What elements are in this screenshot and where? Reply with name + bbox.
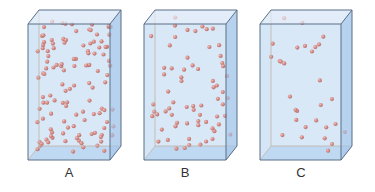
right-face [341, 10, 352, 160]
top-face [260, 10, 352, 24]
label-a: A [65, 165, 74, 180]
right-face [226, 10, 237, 160]
top-face [28, 10, 121, 24]
container-c [260, 10, 352, 160]
front-panel [144, 24, 226, 160]
container-a [28, 10, 121, 160]
label-b: B [181, 165, 190, 180]
container-b [144, 10, 237, 160]
front-panel [28, 24, 110, 160]
label-c: C [296, 165, 305, 180]
top-face [144, 10, 237, 24]
front-panel [260, 24, 341, 160]
right-face [110, 10, 121, 160]
gas-density-figure: A B C [0, 0, 375, 192]
